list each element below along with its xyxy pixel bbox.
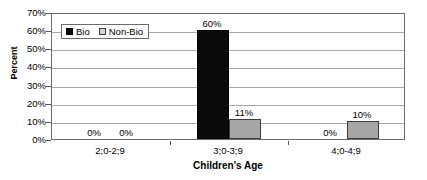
legend-label: Non-Bio — [109, 27, 143, 37]
y-axis-tick-mark — [46, 104, 51, 105]
legend-swatch-icon — [99, 28, 106, 35]
y-axis-tick-mark — [46, 31, 51, 32]
y-axis-tick-mark — [46, 67, 51, 68]
x-axis-tick-label: 3;0-3;9 — [169, 145, 287, 156]
x-axis-tick-label: 4;0-4;9 — [287, 145, 405, 156]
bar-chart: Percent 70%60%50%40%30%20%10%0% BioNon-B… — [0, 0, 427, 180]
y-axis-tick-labels: 70%60%50%40%30%20%10%0% — [8, 0, 46, 180]
legend-entry-non-bio: Non-Bio — [99, 27, 143, 37]
y-axis-tick-label: 40% — [12, 62, 46, 72]
y-axis-tick-mark — [46, 49, 51, 50]
bar-value-label: 0% — [308, 128, 352, 138]
y-axis-tick-label: 10% — [12, 117, 46, 127]
x-axis-tick-label: 2;0-2;9 — [51, 145, 169, 156]
bar-value-label: 10% — [340, 110, 384, 120]
y-axis-tick-label: 60% — [12, 26, 46, 36]
bar-value-label: 11% — [222, 108, 266, 118]
y-axis-tick-label: 50% — [12, 44, 46, 54]
legend-label: Bio — [76, 27, 90, 37]
y-axis-tick-label: 20% — [12, 99, 46, 109]
y-axis-tick-mark — [46, 86, 51, 87]
y-axis-tick-mark — [46, 140, 51, 141]
y-axis-tick-mark — [46, 122, 51, 123]
y-axis-tick-label: 70% — [12, 8, 46, 18]
bar-value-label: 60% — [190, 19, 234, 29]
x-axis-title: Children's Age — [51, 160, 405, 171]
bar-bio-3;0-3;9 — [197, 30, 229, 139]
bar-non-bio-3;0-3;9 — [229, 119, 261, 139]
y-axis-tick-label: 0% — [12, 135, 46, 145]
y-axis-tick-label: 30% — [12, 81, 46, 91]
legend-entry-bio: Bio — [66, 27, 90, 37]
y-axis-tick-mark — [46, 13, 51, 14]
bar-value-label: 0% — [104, 128, 148, 138]
legend-swatch-icon — [66, 28, 73, 35]
chart-legend: BioNon-Bio — [61, 24, 149, 39]
